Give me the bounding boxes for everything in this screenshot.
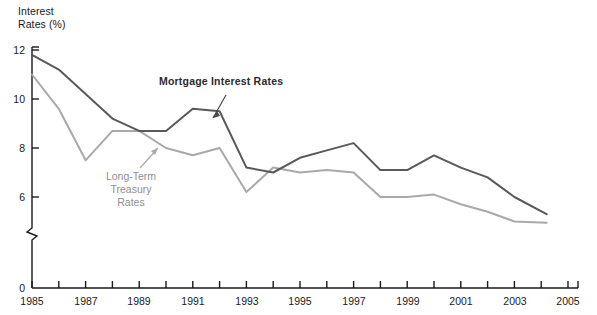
- x-tick-marks: [32, 281, 568, 288]
- series-line-treasury: [32, 75, 547, 223]
- plot-area: [0, 0, 597, 315]
- axes: [27, 47, 578, 288]
- y-axis-line: [27, 47, 37, 288]
- mortgage-leader-line: [213, 95, 226, 118]
- interest-rates-line-chart: InterestRates (%) 12 10 8 6 0 1985 1987 …: [0, 0, 597, 315]
